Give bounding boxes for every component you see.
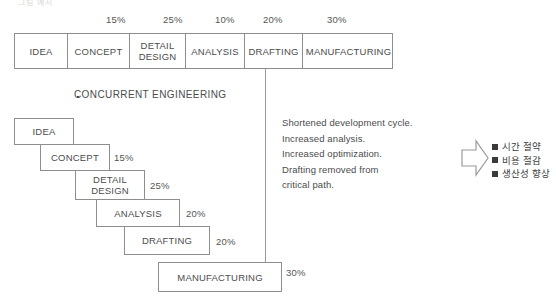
sequential-stage-detail: DETAIL DESIGN [130, 34, 186, 68]
benefit-line: critical path. [282, 177, 442, 193]
concurrent-stage-idea: IDEA [14, 118, 74, 145]
benefits-text: Shortened development cycle.Increased an… [282, 115, 442, 193]
concurrent-percent-label: 20% [216, 236, 236, 247]
concurrent-percent-label: 25% [150, 180, 170, 191]
sequential-stage-idea: IDEA [15, 34, 68, 68]
sequential-percent-label: 30% [327, 14, 347, 25]
outcome-item: 생산성 향상 [492, 167, 550, 181]
outcome-list: 시간 절약비용 절감생산성 향상 [492, 140, 550, 181]
clipped-top-text: 그림 예시 [18, 0, 53, 7]
benefit-line: Drafting removed from [282, 162, 442, 178]
square-bullet-icon [492, 171, 498, 177]
benefit-line: Increased optimization. [282, 146, 442, 162]
concurrent-percent-label: 30% [286, 267, 306, 278]
sequential-percent-label: 15% [106, 14, 126, 25]
outcome-item: 비용 절감 [492, 154, 550, 168]
concurrent-percent-label: 15% [114, 152, 134, 163]
square-bullet-icon [492, 144, 498, 150]
sequential-stage-manufacturing: MANUFACTURING [303, 34, 394, 68]
sequential-stage-analysis: ANALYSIS [186, 34, 245, 68]
sequential-percent-label: 25% [163, 14, 183, 25]
outcome-label: 생산성 향상 [502, 167, 550, 181]
right-block-arrow-icon [461, 139, 489, 177]
connector-line [265, 69, 266, 292]
benefit-line: Increased analysis. [282, 131, 442, 147]
concurrent-stage-concept: CONCEPT [40, 144, 110, 171]
concurrent-stage-detail: DETAIL DESIGN [75, 170, 145, 200]
sequential-percent-label: 10% [215, 14, 235, 25]
concurrent-stage-analysis: ANALYSIS [96, 199, 180, 227]
benefit-line: Shortened development cycle. [282, 115, 442, 131]
outcome-item: 시간 절약 [492, 140, 550, 154]
concurrent-stage-drafting: DRAFTING [124, 226, 210, 255]
sequential-stage-drafting: DRAFTING [245, 34, 303, 68]
sequential-percent-label: 20% [263, 14, 283, 25]
square-bullet-icon [492, 157, 498, 163]
concurrent-percent-label: 20% [186, 208, 206, 219]
sequential-stage-concept: CONCEPT [68, 34, 130, 68]
outcome-label: 시간 절약 [502, 140, 541, 154]
sequential-process-bar: IDEACONCEPTDETAIL DESIGNANALYSISDRAFTING… [14, 33, 393, 69]
concurrent-engineering-heading: CONCURRENT ENGINEERING [74, 89, 227, 100]
diagram-canvas: 그림 예시 15%25%10%20%30% IDEACONCEPTDETAIL … [0, 0, 556, 306]
outcome-label: 비용 절감 [502, 154, 541, 168]
concurrent-stage-manufacturing: MANUFACTURING [158, 262, 282, 292]
